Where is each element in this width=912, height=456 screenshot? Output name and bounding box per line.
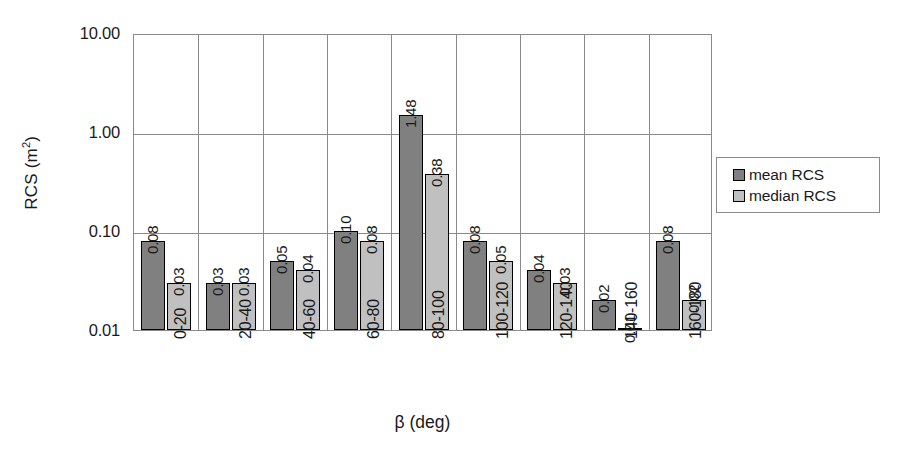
gridline-vertical bbox=[263, 35, 264, 330]
bar-mean bbox=[656, 241, 680, 330]
y-axis-tick-label: 0.10 bbox=[58, 222, 120, 241]
bar-value-label: 0.03 bbox=[235, 267, 252, 295]
gridline-vertical bbox=[198, 35, 199, 330]
legend-swatch-mean-icon bbox=[733, 169, 745, 181]
bar-value-label: 0.08 bbox=[363, 225, 380, 253]
gridline-vertical bbox=[520, 35, 521, 330]
bar-value-label: 0.04 bbox=[530, 255, 547, 283]
y-axis-title-exponent: 2 bbox=[20, 142, 32, 148]
x-axis-tick-label: 120-140 bbox=[558, 282, 576, 339]
x-axis-tick-label: 80-100 bbox=[430, 290, 448, 339]
bar-value-label: 0.10 bbox=[337, 216, 354, 244]
bar-mean bbox=[463, 241, 487, 330]
bar-mean bbox=[399, 115, 423, 330]
x-axis-tick-label: 100-120 bbox=[494, 282, 512, 339]
legend-label-mean: mean RCS bbox=[749, 166, 824, 184]
gridline-horizontal bbox=[134, 134, 711, 135]
x-axis-tick-label: 20-40 bbox=[237, 299, 255, 339]
y-axis-tick-label: 10.00 bbox=[58, 24, 120, 43]
x-axis-tick-label: 160-180 bbox=[687, 282, 705, 339]
x-axis-tick-label: 60-80 bbox=[365, 299, 383, 339]
bar-value-label: 0.04 bbox=[299, 255, 316, 283]
gridline-horizontal bbox=[134, 233, 711, 234]
y-axis-title-text: RCS (m bbox=[22, 148, 41, 210]
gridline-vertical bbox=[584, 35, 585, 330]
y-axis-title: RCS (m2) bbox=[20, 123, 42, 223]
x-axis-tick-label: 40-60 bbox=[301, 299, 319, 339]
bar-mean bbox=[334, 231, 358, 330]
bar-value-label: 0.05 bbox=[492, 245, 509, 273]
legend-item-mean-rcs: mean RCS bbox=[733, 166, 824, 184]
bar-value-label: 0.08 bbox=[144, 225, 161, 253]
bar-value-label: 0.38 bbox=[428, 158, 445, 186]
x-axis-tick-label: 0-20 bbox=[172, 308, 190, 339]
bar-value-label: 1.48 bbox=[402, 100, 419, 128]
y-axis-title-close: ) bbox=[22, 136, 41, 142]
gridline-vertical bbox=[456, 35, 457, 330]
legend-label-median: median RCS bbox=[749, 187, 836, 205]
bar-value-label: 0.08 bbox=[659, 225, 676, 253]
legend: mean RCS median RCS bbox=[716, 157, 880, 213]
bar-value-label: 0.03 bbox=[209, 267, 226, 295]
bar-value-label: 0.03 bbox=[170, 267, 187, 295]
bar-value-label: 0.08 bbox=[466, 225, 483, 253]
legend-item-median-rcs: median RCS bbox=[733, 187, 836, 205]
legend-swatch-median-icon bbox=[733, 190, 745, 202]
bar-mean bbox=[141, 241, 165, 330]
bar-value-label: 0.05 bbox=[273, 245, 290, 273]
y-axis-tick-label: 0.01 bbox=[58, 321, 120, 340]
bar-value-label: 0.02 bbox=[595, 285, 612, 313]
x-axis-tick-label: 140-160 bbox=[623, 282, 641, 339]
gridline-vertical bbox=[327, 35, 328, 330]
rcs-bar-chart: RCS (m2) 10.001.000.100.01 0.080.030.050… bbox=[0, 0, 912, 456]
y-axis-tick-label: 1.00 bbox=[58, 123, 120, 142]
gridline-vertical bbox=[649, 35, 650, 330]
x-axis-title: β (deg) bbox=[133, 412, 712, 433]
gridline-vertical bbox=[391, 35, 392, 330]
